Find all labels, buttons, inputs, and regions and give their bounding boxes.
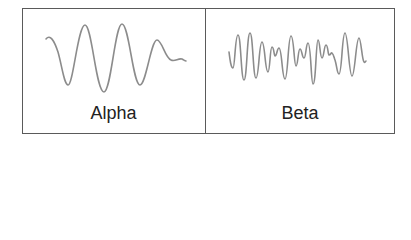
alpha-label: Alpha <box>22 103 205 123</box>
beta-label: Beta <box>206 103 394 123</box>
